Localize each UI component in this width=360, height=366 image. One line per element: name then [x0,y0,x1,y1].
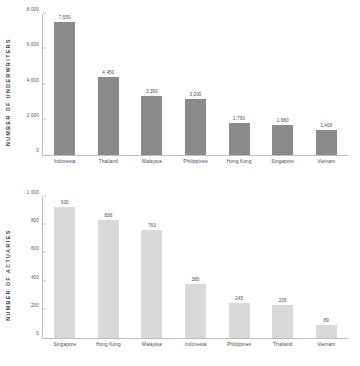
y-tick-label: 4,000 [27,77,43,82]
y-tick-label: 400 [31,274,43,279]
bar-value-label: 380 [192,277,200,282]
bar[interactable]: 4,450 [98,77,119,155]
bar-value-label: 1,680 [277,118,289,123]
y-tick-label: 8,000 [27,7,43,12]
x-axis-labels-underwriters: IndonesiaThailandMalaysiaPhilippinesHong… [43,155,348,164]
y-tick-label: 1,000 [27,190,43,195]
x-axis-category-label: Thailand [87,159,131,164]
x-axis-category-label: Philippines [174,159,218,164]
bar-slot: 380 [174,197,218,338]
bar[interactable]: 1,403 [316,130,337,155]
bar[interactable]: 1,680 [272,125,293,155]
bar-value-label: 3,350 [146,89,158,94]
bar-slot: 930 [43,197,87,338]
y-axis-title-actuaries: NUMBER OF ACTUARIES [0,183,16,366]
bar[interactable]: 7,550 [54,22,75,155]
bar-value-label: 836 [104,213,112,218]
plot-area-actuaries: 02004006008001,000 93083676338024523589 … [42,197,348,339]
bar-slot: 7,550 [43,14,87,155]
bar-slot: 836 [87,197,131,338]
x-axis-category-label: Singapore [43,342,87,347]
bar-slot: 3,200 [174,14,218,155]
bar-value-label: 1,403 [320,123,332,128]
x-axis-category-label: Indonesia [43,159,87,164]
bar[interactable]: 89 [316,325,337,338]
plot-frame: 02004006008001,000 93083676338024523589 … [42,197,348,339]
bar-series-actuaries: 93083676338024523589 [43,197,348,338]
bar-slot: 763 [130,197,174,338]
bar-series-underwriters: 7,5504,4503,3503,2001,7901,6801,403 [43,14,348,155]
bar-value-label: 7,550 [59,15,71,20]
bar[interactable]: 930 [54,207,75,338]
bar[interactable]: 3,200 [185,99,206,155]
bar-slot: 245 [217,197,261,338]
plot-area-underwriters: 02,0004,0006,0008,000 7,5504,4503,3503,2… [42,14,348,156]
bar-value-label: 763 [148,223,156,228]
x-axis-category-label: Singapore [261,159,305,164]
x-axis-category-label: Vietnam [304,342,348,347]
y-tick-label: 0 [36,331,43,336]
x-axis-category-label: Thailand [261,342,305,347]
bar-value-label: 3,200 [190,92,202,97]
x-axis-category-label: Hong Kong [217,159,261,164]
y-axis-title-label: NUMBER OF ACTUARIES [5,229,11,320]
x-axis-category-label: Philippines [217,342,261,347]
y-tick-label: 2,000 [27,112,43,117]
bar-value-label: 4,450 [102,70,114,75]
bar-slot: 3,350 [130,14,174,155]
bar-value-label: 245 [235,296,243,301]
bar[interactable]: 1,790 [229,123,250,155]
bar-value-label: 930 [61,200,69,205]
y-tick-label: 200 [31,302,43,307]
bar-slot: 1,680 [261,14,305,155]
y-axis-title-label: NUMBER OF UNDERWRITERS [5,37,11,145]
y-tick-label: 0 [36,148,43,153]
chart-actuaries: NUMBER OF ACTUARIES 02004006008001,000 9… [0,183,360,366]
chart-underwriters: NUMBER OF UNDERWRITERS 02,0004,0006,0008… [0,0,360,183]
bar-value-label: 1,790 [233,116,245,121]
y-tick-label: 600 [31,246,43,251]
x-axis-category-label: Indonesia [174,342,218,347]
bar-slot: 235 [261,197,305,338]
x-axis-category-label: Hong Kong [87,342,131,347]
y-tick-label: 800 [31,218,43,223]
bar-slot: 89 [304,197,348,338]
bar-slot: 1,403 [304,14,348,155]
bar[interactable]: 836 [98,220,119,338]
bar[interactable]: 763 [141,230,162,338]
bar[interactable]: 235 [272,305,293,338]
bar-value-label: 235 [279,298,287,303]
bar-slot: 4,450 [87,14,131,155]
plot-frame: 02,0004,0006,0008,000 7,5504,4503,3503,2… [42,14,348,156]
x-axis-category-label: Vietnam [304,159,348,164]
x-axis-category-label: Malaysia [130,342,174,347]
bar[interactable]: 380 [185,284,206,338]
y-axis-title-underwriters: NUMBER OF UNDERWRITERS [0,0,16,183]
bar[interactable]: 3,350 [141,96,162,155]
x-axis-labels-actuaries: SingaporeHong KongMalaysiaIndonesiaPhili… [43,338,348,347]
chart-page: NUMBER OF UNDERWRITERS 02,0004,0006,0008… [0,0,360,366]
x-axis-category-label: Malaysia [130,159,174,164]
y-tick-label: 6,000 [27,42,43,47]
bar-slot: 1,790 [217,14,261,155]
bar-value-label: 89 [324,318,329,323]
bar[interactable]: 245 [229,303,250,338]
